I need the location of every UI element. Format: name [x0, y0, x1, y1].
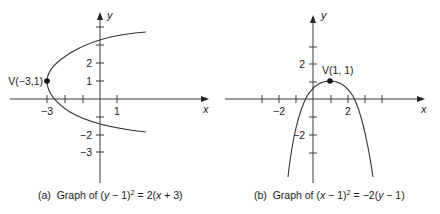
- x-axis-label: x: [420, 103, 427, 115]
- vertex-point: [44, 78, 50, 84]
- y-axis-arrow-icon: [310, 15, 316, 23]
- vertex-label: V(1, 1): [322, 64, 354, 76]
- x-tick-label: 1: [114, 105, 120, 117]
- x-axis-arrow-icon: [201, 96, 209, 102]
- vertex-point: [327, 78, 333, 84]
- x-tick-label: 2: [345, 105, 351, 117]
- caption-b: (b) Graph of (x − 1)2 = −2(y − 1): [254, 188, 405, 201]
- x-tick-label: −3: [41, 105, 53, 117]
- y-tick-label: −3: [80, 146, 92, 158]
- y-tick-label: 2: [86, 57, 92, 69]
- vertex-label: V(−3,1): [8, 75, 43, 87]
- y-tick-label: −2: [80, 129, 92, 141]
- x-axis-label: x: [202, 103, 209, 115]
- y-tick-label: 1: [86, 75, 92, 87]
- caption-a: (a) Graph of (y − 1)2 = 2(x + 3): [38, 188, 183, 201]
- y-axis-label: y: [320, 9, 328, 21]
- panel-b: −2 2 2 −2 y x V(1, 1) (b) Graph of (x − …: [225, 9, 427, 201]
- y-tick-label: 2: [299, 58, 305, 70]
- y-axis-arrow-icon: [97, 12, 103, 20]
- y-axis-label: y: [106, 9, 114, 21]
- panel-a: −3 1 2 1 −2 −3 y x V(−3,1) (a) Graph of …: [8, 9, 209, 201]
- x-axis-arrow-icon: [417, 96, 425, 102]
- x-tick-label: −2: [273, 105, 285, 117]
- parabola-figure: −3 1 2 1 −2 −3 y x V(−3,1) (a) Graph of …: [0, 0, 440, 214]
